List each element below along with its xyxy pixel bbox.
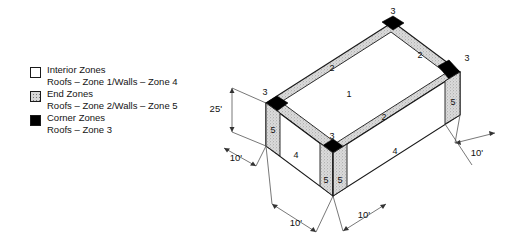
dim-bottom-left-ext-a bbox=[266, 146, 272, 204]
dim-label-right-edge: 10' bbox=[471, 147, 484, 158]
dim-right-arrow-b bbox=[489, 131, 495, 136]
label-roof-end-zone-2-left: 2 bbox=[329, 63, 334, 73]
label-wall-right-interior-zone-4: 4 bbox=[392, 146, 397, 156]
dim-bottom-right-arrow-a bbox=[343, 226, 349, 231]
dim-label-bottom-left: 10' bbox=[290, 217, 303, 228]
label-wall-front-end-zone-5-a: 5 bbox=[323, 175, 328, 185]
dim-bottom-left-ext-b bbox=[316, 196, 333, 232]
dim-right-ext-b bbox=[445, 124, 472, 165]
dim-label-bottom-right: 10' bbox=[358, 209, 371, 220]
label-roof-corner-zone-3-top: 3 bbox=[390, 6, 395, 16]
dim-left-arrow-b bbox=[250, 162, 256, 167]
dim-bottom-right-arrow-b bbox=[380, 204, 386, 209]
dim-right-line bbox=[455, 133, 495, 143]
dim-label-left-edge: 10' bbox=[230, 152, 243, 163]
label-roof-interior-zone-1: 1 bbox=[346, 89, 351, 99]
label-wall-right-end-zone-5: 5 bbox=[450, 97, 455, 107]
label-roof-corner-zone-3-front: 3 bbox=[329, 131, 334, 141]
label-roof-end-zone-2-front: 2 bbox=[381, 112, 386, 122]
label-wall-left-interior-zone-4: 4 bbox=[293, 150, 298, 160]
wall-left-front-end-zone-5 bbox=[320, 143, 333, 196]
dim-height-arrow-bottom bbox=[230, 127, 235, 132]
isometric-building-drawing: 1 2 2 2 3 3 3 3 4 4 5 5 5 5 bbox=[0, 0, 513, 247]
label-roof-corner-zone-3-right: 3 bbox=[464, 53, 469, 63]
dim-bottom-left-arrow-b bbox=[310, 227, 316, 232]
wall-right-front-end-zone-5 bbox=[333, 144, 347, 196]
dim-bottom-right-ext-a bbox=[333, 196, 343, 231]
dim-height-ext-top bbox=[232, 88, 266, 103]
label-wall-front-end-zone-5-b: 5 bbox=[337, 175, 342, 185]
label-roof-corner-zone-3-left: 3 bbox=[262, 87, 267, 97]
label-wall-left-end-zone-5: 5 bbox=[270, 125, 275, 135]
wind-zone-figure: Interior Zones Roofs – Zone 1/Walls – Zo… bbox=[0, 0, 513, 247]
label-roof-end-zone-2-right: 2 bbox=[417, 50, 422, 60]
dim-height-ext-bottom bbox=[232, 132, 266, 146]
dim-bottom-left-arrow-a bbox=[272, 204, 278, 209]
dim-left-ext bbox=[256, 146, 266, 166]
dim-right-ext-a bbox=[455, 115, 460, 143]
dim-label-height: 25' bbox=[210, 103, 223, 114]
